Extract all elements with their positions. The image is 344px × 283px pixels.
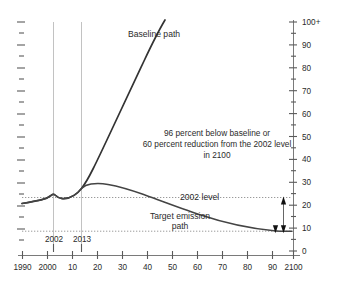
- y-tick-label: 60: [302, 110, 312, 119]
- target-endpoint-arrow-head: [273, 225, 278, 233]
- x-tick-label: 90: [268, 263, 278, 272]
- reduction-note-line2: 60 percent reduction from the 2002 level: [143, 139, 292, 149]
- y-tick-label: 10: [302, 224, 312, 233]
- y-tick-label: 0: [302, 247, 307, 256]
- chart-canvas: 100+ 90 80 70 60 50 40 30 20 10 0: [0, 0, 344, 283]
- reduction-note-line1: 96 percent below baseline or: [164, 128, 270, 138]
- x-tick-label: 30: [118, 263, 128, 272]
- y-tick-label: 40: [302, 155, 312, 164]
- gridline-label-2002: 2002: [45, 235, 64, 244]
- y-tick-label: 80: [302, 64, 312, 73]
- left-tick-marks: [17, 22, 25, 240]
- target-emission-path-curve: [22, 184, 292, 232]
- x-tick-label: 10: [68, 263, 78, 272]
- x-tick-label: 60: [193, 263, 203, 272]
- y-tick-label: 50: [302, 133, 312, 142]
- x-tick-label: 50: [168, 263, 178, 272]
- right-tick-marks: [289, 22, 297, 251]
- reduction-note-line3: in 2100: [203, 150, 231, 160]
- x-tick-label: 70: [218, 263, 228, 272]
- baseline-path-label: Baseline path: [128, 29, 180, 39]
- x-tick-label: 40: [143, 263, 153, 272]
- x-tick-label: 2100: [284, 263, 303, 272]
- y-tick-label: 30: [302, 178, 312, 187]
- y-tick-label: 70: [302, 87, 312, 96]
- gridline-label-2013: 2013: [73, 235, 92, 244]
- x-axis-labels: 1990 2000 10 20 30 40 50 60 70 80 90 210…: [13, 263, 303, 272]
- vertical-gridlines: [54, 22, 82, 248]
- reduction-arrow: [273, 197, 286, 234]
- emissions-projection-chart: 100+ 90 80 70 60 50 40 30 20 10 0: [0, 0, 344, 283]
- gridline-tick-stubs: [54, 244, 82, 252]
- baseline-path-curve: [22, 20, 165, 204]
- reduction-arrow-head-up: [281, 197, 286, 205]
- x-tick-label: 2000: [38, 263, 57, 272]
- y-tick-label: 90: [302, 41, 312, 50]
- x-tick-label: 20: [93, 263, 103, 272]
- y-tick-label: 100+: [302, 18, 321, 27]
- reduction-note: 96 percent below baseline or 60 percent …: [143, 128, 292, 160]
- target-path-label-line2: path: [172, 221, 189, 231]
- gridline-labels: 2002 2013: [45, 235, 92, 244]
- right-axis-labels: 100+ 90 80 70 60 50 40 30 20 10 0: [302, 18, 321, 256]
- x-tick-label: 80: [243, 263, 253, 272]
- level-2002-label: 2002 level: [180, 192, 219, 202]
- target-path-label-line1: Target emission: [150, 211, 210, 221]
- x-tick-label: 1990: [13, 263, 32, 272]
- y-tick-label: 20: [302, 201, 312, 210]
